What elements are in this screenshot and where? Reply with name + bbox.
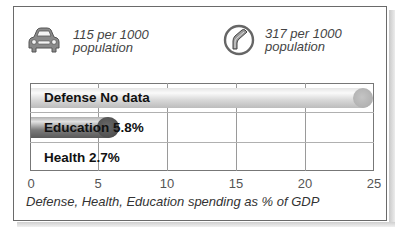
car-icon bbox=[27, 26, 61, 56]
frame-shadow-right bbox=[389, 10, 395, 226]
stat-cars-unit: population bbox=[73, 41, 149, 54]
stat-cars: 115 per 1000 population bbox=[27, 26, 149, 56]
x-tick-5: 5 bbox=[94, 176, 101, 191]
row-divider bbox=[30, 142, 374, 143]
stat-telephones-unit: population bbox=[265, 40, 342, 53]
x-tick-15: 15 bbox=[229, 176, 243, 191]
bar-defense-cap bbox=[353, 88, 373, 108]
bar-label-education: Education 5.8% bbox=[44, 120, 144, 135]
telephone-icon bbox=[223, 24, 257, 56]
stat-telephones: 317 per 1000 population bbox=[223, 24, 342, 56]
row-divider bbox=[30, 112, 374, 113]
frame-shadow-bottom bbox=[17, 222, 395, 227]
bar-label-defense: Defense No data bbox=[44, 90, 150, 105]
x-tick-0: 0 bbox=[27, 176, 34, 191]
x-tick-20: 20 bbox=[298, 176, 312, 191]
x-tick-10: 10 bbox=[160, 176, 174, 191]
x-tick-25: 25 bbox=[367, 176, 381, 191]
bar-label-health: Health 2.7% bbox=[44, 150, 120, 165]
x-axis-label: Defense, Health, Education spending as %… bbox=[26, 194, 319, 209]
